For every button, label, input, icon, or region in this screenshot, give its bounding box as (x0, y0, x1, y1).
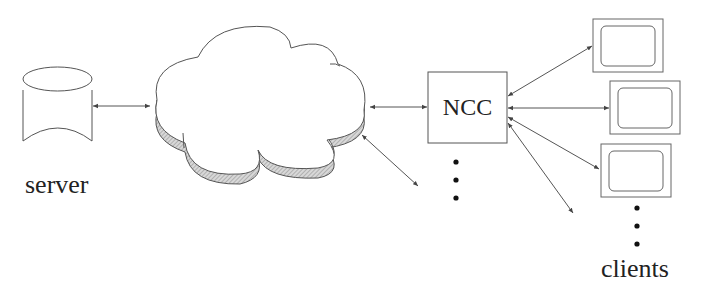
ncc-label: NCC (443, 94, 492, 120)
client-monitor-icon (593, 19, 663, 72)
network-more-ncc-link (362, 135, 418, 186)
client-monitor-icon (601, 144, 671, 197)
clients-ellipsis (634, 205, 639, 246)
server-label: server (25, 170, 89, 199)
network-diagram: server NCC (0, 0, 703, 293)
server-icon (23, 67, 92, 141)
cloud-icon (156, 26, 365, 184)
ncc-ellipsis (453, 159, 458, 200)
clients-label: clients (601, 254, 669, 283)
ncc-client-1-link (508, 46, 592, 96)
ncc-client-3-link (508, 117, 599, 169)
client-monitor-icon (610, 81, 680, 134)
ncc-more-clients-link (508, 123, 573, 213)
